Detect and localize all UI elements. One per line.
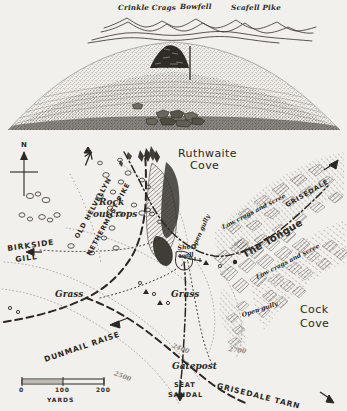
label-seat-sandal-line2: SANDAL <box>168 392 203 399</box>
scale-tick-100: 100 <box>55 387 70 393</box>
label-gatepost: Gatepost <box>172 362 217 371</box>
label-cock-cove-line2: Cove <box>300 318 329 330</box>
map-sheet: Crinkle Crags Bowfell Scafell Pike <box>0 0 347 411</box>
label-ruthwaite-cove-line1: Ruthwaite <box>178 148 237 160</box>
scale-bar-graphic <box>22 377 104 386</box>
path-seat-sandal <box>179 262 186 394</box>
contour-2700 <box>197 262 215 352</box>
label-grass-right: Grass <box>171 290 199 299</box>
scale-tick-0: 0 <box>19 387 24 393</box>
scale-tick-200: 200 <box>96 387 111 393</box>
label-cock-cove-line1: Cock <box>300 304 328 316</box>
label-seat-sandal-line1: SEAT <box>174 382 196 389</box>
scale-unit-label: YARDS <box>47 397 74 403</box>
contour-2400 <box>4 262 200 381</box>
compass-north-label: N <box>21 142 27 149</box>
compass-rose <box>10 151 38 196</box>
label-grass-left: Grass <box>55 290 83 299</box>
label-ruthwaite-cove-line2: Cove <box>190 160 219 172</box>
cock-cove-gully-crags <box>219 288 249 354</box>
ruthwaite-crags <box>138 146 179 266</box>
